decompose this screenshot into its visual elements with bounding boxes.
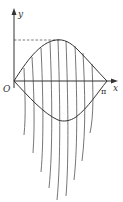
pi-label: π — [101, 87, 106, 96]
strand-8 — [82, 53, 85, 161]
strand-7 — [74, 46, 77, 180]
strand-9 — [90, 64, 93, 133]
strand-6 — [66, 41, 68, 196]
strand-1 — [24, 68, 25, 135]
y-axis-arrow-icon — [12, 8, 17, 15]
x-axis-label: x — [113, 83, 118, 93]
strand-2 — [32, 57, 34, 153]
sine-curve — [14, 40, 107, 81]
y-axis-label: y — [17, 9, 24, 19]
origin-label: O — [3, 84, 11, 94]
sine-curve-diagram: y x O π — [0, 0, 123, 202]
